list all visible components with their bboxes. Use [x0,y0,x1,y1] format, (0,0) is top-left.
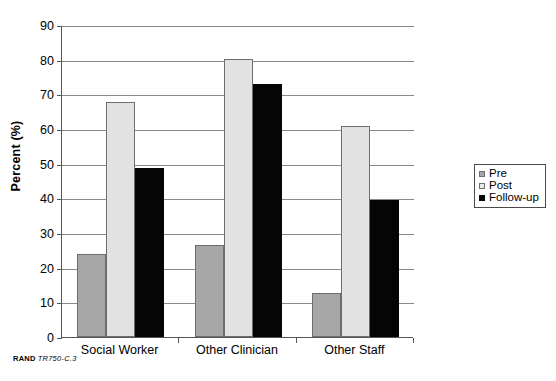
bar-post-0 [106,102,135,337]
legend-label: Pre [489,168,507,180]
x-category-label-1: Other Clinician [196,344,278,357]
y-tick-10 [57,303,62,304]
y-tick-label-10: 10 [40,297,54,310]
legend-swatch-icon-follow [479,195,485,201]
legend-label: Post [489,180,512,192]
bar-post-2 [341,126,370,337]
y-tick-label-40: 40 [40,193,54,206]
legend-item-pre[interactable]: Pre [479,168,539,179]
y-tick-label-80: 80 [40,54,54,67]
x-category-label-0: Social Worker [81,344,159,357]
y-tick-60 [57,130,62,131]
y-tick-label-70: 70 [40,89,54,102]
bar-post-1 [224,59,253,337]
y-tick-30 [57,234,62,235]
y-tick-40 [57,199,62,200]
x-tick-1 [296,338,297,343]
y-tick-label-30: 30 [40,228,54,241]
caption-org: RAND [13,354,36,363]
y-tick-label-0: 0 [47,332,54,345]
bar-follow-up-1 [253,84,282,337]
y-tick-20 [57,269,62,270]
y-tick-70 [57,95,62,96]
bar-pre-2 [312,293,341,337]
legend-swatch-icon-pre [479,171,485,177]
bar-pre-1 [195,245,224,337]
plot-area: 0102030405060708090 [61,26,413,338]
y-tick-label-60: 60 [40,124,54,137]
y-tick-label-90: 90 [40,20,54,33]
x-category-label-2: Other Staff [324,344,384,357]
x-tick-2 [413,338,414,343]
bar-follow-up-2 [370,200,399,337]
legend-swatch-icon-post [479,183,485,189]
x-tick-0 [178,338,179,343]
y-tick-90 [57,26,62,27]
figure-caption: RANDTR750-C.3 [13,355,77,363]
bar-group-0 [77,26,164,337]
chart-legend: PrePostFollow-up [474,164,546,208]
legend-item-post[interactable]: Post [479,180,539,191]
bar-group-2 [312,26,399,337]
legend-label: Follow-up [489,192,539,204]
caption-reference: TR750-C.3 [38,354,77,363]
y-tick-0 [57,338,62,339]
y-tick-80 [57,61,62,62]
bar-pre-0 [77,254,106,337]
bar-follow-up-0 [135,168,164,337]
bar-chart-figure: Percent (%) 0102030405060708090 PrePostF… [0,0,556,381]
y-tick-label-20: 20 [40,262,54,275]
bar-group-1 [195,26,282,337]
y-tick-50 [57,165,62,166]
y-tick-label-50: 50 [40,158,54,171]
y-axis-title: Percent (%) [8,0,24,312]
legend-item-follow-up[interactable]: Follow-up [479,192,539,203]
